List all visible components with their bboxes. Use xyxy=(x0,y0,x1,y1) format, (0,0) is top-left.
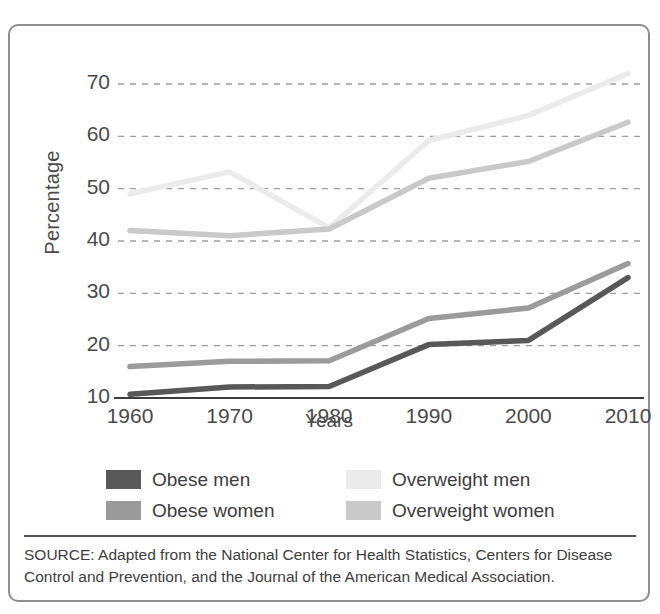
legend-label: Obese men xyxy=(152,469,250,491)
y-axis-tick-label: 20 xyxy=(68,332,110,356)
source-note: SOURCE: Adapted from the National Center… xyxy=(24,544,640,587)
legend-swatch-icon xyxy=(346,501,381,520)
legend-item-overweight-men: Overweight men xyxy=(346,469,596,491)
legend-item-overweight-women: Overweight women xyxy=(346,500,596,522)
y-axis-tick-label: 60 xyxy=(68,122,110,146)
x-axis-tick-label: 1990 xyxy=(389,404,469,428)
legend-swatch-icon xyxy=(346,470,381,489)
legend-item-obese-men: Obese men xyxy=(106,469,346,491)
chart-legend: Obese men Overweight men Obese women Ove… xyxy=(106,464,586,526)
legend-item-obese-women: Obese women xyxy=(106,500,346,522)
figure-panel: Percentage Years 10203040506070196019701… xyxy=(8,24,650,602)
x-axis-tick-label: 1960 xyxy=(90,404,170,428)
chart-plot-area: Percentage Years 10203040506070196019701… xyxy=(10,26,648,446)
x-axis-tick-label: 2000 xyxy=(488,404,568,428)
source-divider xyxy=(24,535,636,537)
y-axis-tick-label: 70 xyxy=(68,70,110,94)
x-axis-tick-label: 1980 xyxy=(289,404,369,428)
x-axis-tick-label: 1970 xyxy=(190,404,270,428)
legend-label: Overweight women xyxy=(392,500,555,522)
legend-label: Obese women xyxy=(152,500,275,522)
legend-swatch-icon xyxy=(106,470,141,489)
legend-swatch-icon xyxy=(106,501,141,520)
y-axis-tick-label: 50 xyxy=(68,175,110,199)
legend-label: Overweight men xyxy=(392,469,530,491)
y-axis-tick-label: 40 xyxy=(68,227,110,251)
x-axis-tick-label: 2010 xyxy=(588,404,660,428)
cropped-top-text xyxy=(70,0,370,14)
y-axis-tick-label: 30 xyxy=(68,279,110,303)
